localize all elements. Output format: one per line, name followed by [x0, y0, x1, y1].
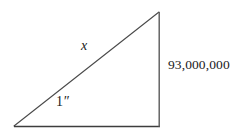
vertical-leg-label: 93,000,000 [168, 58, 230, 72]
double-prime-icon: ″ [63, 94, 69, 109]
base-angle-value: 1 [56, 94, 63, 109]
hypotenuse-label: x [81, 39, 87, 53]
base-angle-label: 1″ [56, 95, 69, 109]
figure-canvas: x 1″ 93,000,000 [0, 0, 244, 140]
triangle-hypotenuse-line [14, 12, 159, 126]
